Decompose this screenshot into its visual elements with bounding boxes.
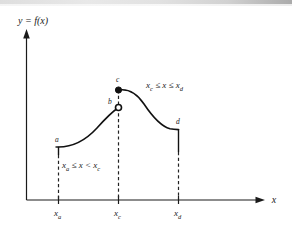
curve-path-left — [59, 108, 119, 148]
axes-group — [23, 29, 265, 203]
x-tick-labels: xa xc xd — [53, 208, 182, 220]
x-axis-title: x — [271, 194, 277, 205]
curve-right-branch — [119, 90, 179, 130]
point-label-b: b — [108, 97, 112, 106]
point-b-open-circle — [116, 105, 122, 111]
range-right-op: ≤ x ≤ — [153, 80, 176, 90]
tick-label-xc-sub: c — [118, 213, 121, 220]
tick-label-xa-sub: a — [58, 213, 61, 220]
curve-path-right — [119, 90, 179, 130]
y-axis-arrowhead — [23, 29, 30, 39]
point-c-filled-dot — [115, 87, 121, 93]
range-label-left-branch: xa ≤ x < xc — [61, 160, 100, 172]
tick-label-xc: xc — [113, 208, 121, 220]
curve-left-branch — [56, 108, 119, 148]
point-label-d: d — [176, 117, 180, 126]
range-annotation-left: xa ≤ x < xc — [61, 160, 100, 172]
figure-root: y = f(x) x a b c d xa xc xd xa ≤ x < xc — [0, 0, 292, 227]
tick-label-xa: xa — [53, 208, 61, 220]
tick-label-xd: xd — [173, 208, 182, 220]
range-left-op: ≤ x < — [69, 160, 93, 170]
point-label-c: c — [116, 75, 120, 84]
range-left-sub2: c — [97, 165, 100, 172]
range-right-sub2: d — [180, 85, 184, 92]
point-label-a: a — [55, 135, 59, 144]
x-axis-arrowhead — [256, 197, 266, 204]
range-annotation-right: xc ≤ x ≤ xd — [145, 80, 184, 92]
tick-label-xd-sub: d — [178, 213, 182, 220]
function-plot: y = f(x) x a b c d xa xc xd xa ≤ x < xc — [0, 0, 292, 227]
y-axis-title: y = f(x) — [17, 15, 49, 27]
range-label-right-branch: xc ≤ x ≤ xd — [145, 80, 184, 92]
